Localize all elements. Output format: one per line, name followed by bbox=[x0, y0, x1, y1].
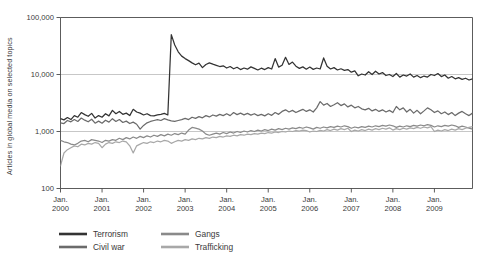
x-tick-label: Jan. bbox=[344, 195, 358, 204]
x-tick-label: 2001 bbox=[94, 204, 111, 213]
x-tick-label: 2002 bbox=[135, 204, 152, 213]
x-tick-label: 2008 bbox=[384, 204, 401, 213]
x-tick-label: Jan. bbox=[427, 195, 441, 204]
x-tick-label: Jan. bbox=[303, 195, 317, 204]
series-line-trafficking bbox=[61, 127, 473, 166]
y-axis-title-group: Articles in global media on selected top… bbox=[5, 37, 14, 175]
y-tick-label: 100 bbox=[41, 184, 54, 193]
y-axis-title: Articles in global media on selected top… bbox=[5, 37, 14, 175]
y-tick-label: 10,000 bbox=[31, 70, 54, 79]
legend-label-trafficking: Trafficking bbox=[195, 242, 234, 252]
x-axis-ticks-group: Jan.2000Jan.2001Jan.2002Jan.2003Jan.2004… bbox=[52, 189, 443, 213]
axes-frame bbox=[61, 18, 473, 189]
series-group bbox=[61, 35, 473, 166]
chart-figure: Articles in global media on selected top… bbox=[0, 0, 488, 265]
legend-label-civil-war: Civil war bbox=[93, 242, 125, 252]
plot-frame bbox=[61, 18, 473, 189]
x-tick-label: 2009 bbox=[426, 204, 443, 213]
chart-legend: TerrorismCivil warGangsTrafficking bbox=[59, 229, 234, 252]
x-tick-label: Jan. bbox=[178, 195, 192, 204]
y-tick-label: 100,000 bbox=[27, 13, 54, 22]
gridlines-group bbox=[61, 75, 473, 132]
x-tick-label: 2004 bbox=[218, 204, 235, 213]
x-tick-label: 2003 bbox=[177, 204, 194, 213]
x-tick-label: 2006 bbox=[301, 204, 318, 213]
line-chart: Articles in global media on selected top… bbox=[0, 0, 488, 265]
x-tick-label: Jan. bbox=[386, 195, 400, 204]
x-tick-label: 2005 bbox=[260, 204, 277, 213]
series-line-civil-war bbox=[61, 102, 473, 130]
y-tick-label: 1,000 bbox=[35, 127, 54, 136]
x-tick-label: Jan. bbox=[95, 195, 109, 204]
x-tick-label: Jan. bbox=[136, 195, 150, 204]
x-tick-label: 2000 bbox=[52, 204, 69, 213]
y-axis-ticks-group: 1001,00010,000100,000 bbox=[27, 13, 61, 193]
x-tick-label: 2007 bbox=[343, 204, 360, 213]
x-tick-label: Jan. bbox=[261, 195, 275, 204]
legend-label-gangs: Gangs bbox=[195, 229, 220, 239]
x-tick-label: Jan. bbox=[53, 195, 67, 204]
x-tick-label: Jan. bbox=[220, 195, 234, 204]
series-line-terrorism bbox=[61, 35, 473, 120]
legend-label-terrorism: Terrorism bbox=[93, 229, 128, 239]
